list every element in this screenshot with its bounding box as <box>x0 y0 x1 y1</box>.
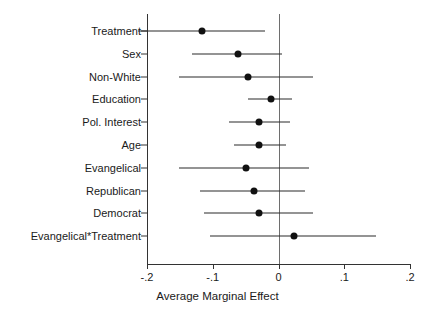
x-tick-1 <box>213 264 214 269</box>
y-tick-7 <box>141 190 147 191</box>
y-tick-6 <box>141 167 147 168</box>
estimate-point <box>242 164 249 171</box>
y-tick-1 <box>141 53 147 54</box>
x-axis-label: Average Marginal Effect <box>0 290 435 302</box>
y-axis-label-1: Sex <box>122 48 141 60</box>
y-axis-label-6: Evangelical <box>85 162 141 174</box>
estimate-point <box>256 210 263 217</box>
y-tick-3 <box>141 99 147 100</box>
estimate-point <box>267 96 274 103</box>
y-tick-5 <box>141 145 147 146</box>
estimate-point <box>290 233 297 240</box>
coefficient-plot: -.2-.10.1.2 TreatmentSexNon-WhiteEducati… <box>0 0 435 316</box>
y-tick-9 <box>141 236 147 237</box>
y-axis-label-7: Republican <box>86 185 141 197</box>
x-tick-0 <box>147 264 148 269</box>
y-axis-label-8: Democrat <box>93 207 141 219</box>
y-axis-line <box>147 14 148 264</box>
y-axis-label-9: Evangelical*Treatment <box>31 230 141 242</box>
y-axis-label-0: Treatment <box>91 25 141 37</box>
x-tick-3 <box>344 264 345 269</box>
estimate-point <box>199 28 206 35</box>
estimate-point <box>256 142 263 149</box>
y-axis-label-4: Pol. Interest <box>82 116 141 128</box>
y-axis-label-3: Education <box>92 93 141 105</box>
y-tick-4 <box>141 122 147 123</box>
zero-reference-line <box>279 14 280 264</box>
x-tick-label-1: -.1 <box>206 271 219 283</box>
estimate-point <box>235 50 242 57</box>
y-axis-label-5: Age <box>121 139 141 151</box>
estimate-point <box>244 73 251 80</box>
x-tick-2 <box>279 264 280 269</box>
x-tick-4 <box>410 264 411 269</box>
y-tick-2 <box>141 76 147 77</box>
x-tick-label-0: -.2 <box>141 271 154 283</box>
y-tick-8 <box>141 213 147 214</box>
x-tick-label-3: .1 <box>340 271 349 283</box>
x-tick-label-2: 0 <box>275 271 281 283</box>
estimate-point <box>251 187 258 194</box>
y-axis-label-2: Non-White <box>89 71 141 83</box>
x-tick-label-4: .2 <box>405 271 414 283</box>
estimate-point <box>256 119 263 126</box>
